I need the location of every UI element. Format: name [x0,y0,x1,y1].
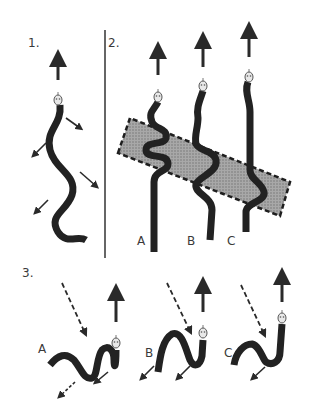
panel-1-number: 1. [28,36,39,50]
snake-head-icon [54,92,62,105]
snake-head-icon [112,335,120,348]
dashed-arrow-icon [62,283,85,333]
obstacle-patch [118,118,290,216]
panel-2: 2. A B C [108,30,290,252]
snake-body [158,333,203,372]
dashed-force-arrow-icon [60,382,75,396]
panel-3: 3. A B C [22,266,286,396]
force-arrow-icon [36,200,48,212]
force-arrow-icon [253,367,265,378]
force-arrow-icon [178,366,190,378]
snake-c-label: C [227,234,235,248]
snake-a-label: A [137,234,146,248]
panel-3-number: 3. [22,266,33,280]
snake-b-label: B [187,234,195,248]
snake-locomotion-diagram: 1. 2. A B C 3. [0,0,310,419]
force-arrow-icon [66,118,80,128]
snake-head-icon [245,69,253,82]
snake-body [234,324,282,365]
snake-head-icon [278,310,286,323]
dashed-arrow-icon [241,285,264,334]
dashed-arrow-icon [167,283,190,331]
force-arrow-icon [34,143,46,155]
snake-head-icon [199,325,207,338]
panel-2-number: 2. [108,36,119,50]
snake-3c-label: C [224,346,232,360]
panel-1: 1. [28,36,96,240]
force-arrow-icon [80,172,96,186]
force-arrow-icon [142,366,154,378]
snake-3b-label: B [145,346,153,360]
snake-head-icon [199,78,207,91]
snake-3a-label: A [38,342,47,356]
snake-head-icon [154,89,162,102]
